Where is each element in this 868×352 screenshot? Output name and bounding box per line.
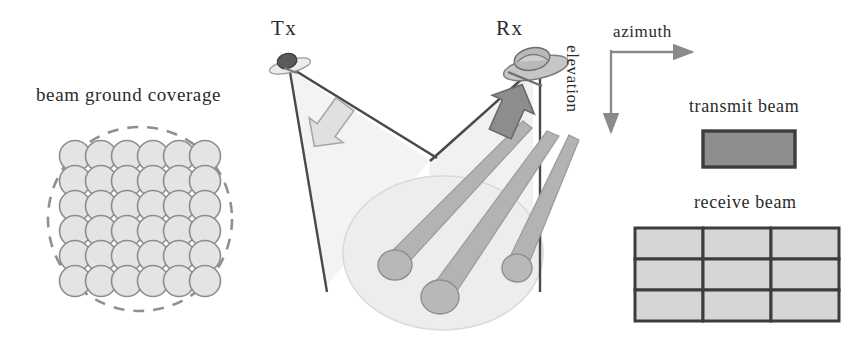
receive-beam-label: receive beam <box>694 192 797 213</box>
receive-beam-cell <box>635 290 703 321</box>
tx-label: Tx <box>271 16 297 41</box>
azimuth-elevation-axes <box>611 50 692 132</box>
receive-beam-pattern <box>635 228 839 321</box>
receive-beam-cell <box>703 259 771 290</box>
receive-beam-cell <box>635 228 703 259</box>
rx-label: Rx <box>496 16 523 41</box>
radar-beam-diagram: beam ground coverage Tx Rx azimuth eleva… <box>0 0 868 352</box>
azimuth-axis-label: azimuth <box>613 22 672 42</box>
receive-beam-cell <box>771 228 839 259</box>
transmit-beam-label: transmit beam <box>689 96 799 117</box>
elevation-axis-label: elevation <box>562 45 582 113</box>
receive-beam-cell <box>703 228 771 259</box>
beam-ground-coverage-label: beam ground coverage <box>36 84 221 106</box>
receive-beam-cell <box>771 290 839 321</box>
transmit-beam-cell <box>703 131 795 167</box>
receive-beam-cell <box>703 290 771 321</box>
receive-beam-cell <box>635 259 703 290</box>
transmit-beam-pattern <box>703 131 795 167</box>
beam-pattern-panel <box>0 0 868 352</box>
receive-beam-cell <box>771 259 839 290</box>
